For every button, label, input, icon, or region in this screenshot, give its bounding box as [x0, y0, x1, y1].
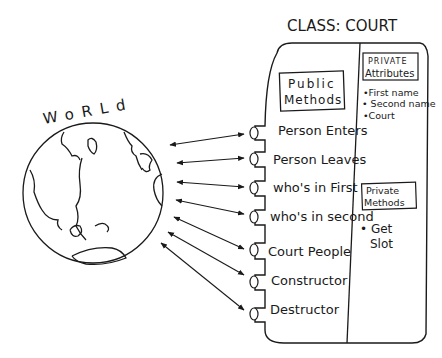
private-attributes-list: •First name • Second name •Court	[362, 87, 436, 121]
public-methods-header-line1: Public	[288, 77, 336, 91]
private-method-get: • Get	[360, 222, 393, 236]
method-court-people: Court People	[268, 244, 351, 259]
private-method-slot: Slot	[370, 237, 393, 251]
attribute-second-name: • Second name	[362, 98, 436, 109]
method-whos-in-second: who's in second	[270, 209, 374, 224]
method-whos-in-first: who's in First	[273, 180, 358, 195]
method-person-leaves: Person Leaves	[273, 152, 366, 167]
method-constructor: Constructor	[271, 273, 348, 288]
private-attributes-header-line1: PRIVATE	[368, 57, 408, 66]
class-title: CLASS: COURT	[287, 17, 398, 35]
public-methods-header-line2: Methods	[284, 93, 342, 107]
attribute-court: •Court	[363, 110, 395, 121]
public-methods-list: Person Enters Person Leaves who's in Fir…	[268, 123, 374, 317]
class-diagram: WoRLd CLASS: COURT	[0, 0, 442, 358]
private-methods-header-line2: Methods	[364, 197, 405, 208]
attribute-first-name: •First name	[363, 87, 419, 98]
method-arrows	[161, 134, 244, 310]
method-plugs	[250, 127, 258, 320]
globe-icon	[23, 123, 163, 264]
method-destructor: Destructor	[270, 302, 340, 317]
method-person-enters: Person Enters	[278, 123, 368, 138]
private-methods-header-line1: Private	[366, 185, 399, 196]
private-attributes-header-line2: Attributes	[365, 68, 414, 79]
